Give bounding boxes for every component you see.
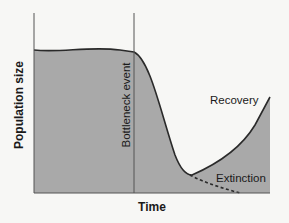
bottleneck-diagram: Population size Time Bottleneck event Re…: [0, 0, 289, 223]
recovery-label: Recovery: [210, 94, 259, 106]
x-axis-label: Time: [138, 200, 166, 214]
y-axis-label: Population size: [12, 61, 26, 149]
bottleneck-label: Bottleneck event: [120, 62, 132, 148]
extinction-label: Extinction: [216, 172, 266, 184]
